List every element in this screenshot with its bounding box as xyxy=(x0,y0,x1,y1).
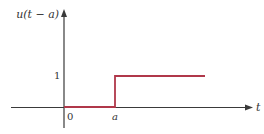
shift-label: a xyxy=(112,111,118,122)
y-axis-arrowhead xyxy=(61,9,67,17)
origin-label: 0 xyxy=(67,111,73,122)
level-one-label: 1 xyxy=(54,70,60,81)
step-function-diagram: u(t − a) t 0 a 1 xyxy=(0,0,264,134)
t-axis-arrowhead xyxy=(245,105,253,111)
step-function-curve xyxy=(64,76,205,107)
y-axis-label: u(t − a) xyxy=(16,8,59,21)
x-axis-label: t xyxy=(256,101,261,114)
